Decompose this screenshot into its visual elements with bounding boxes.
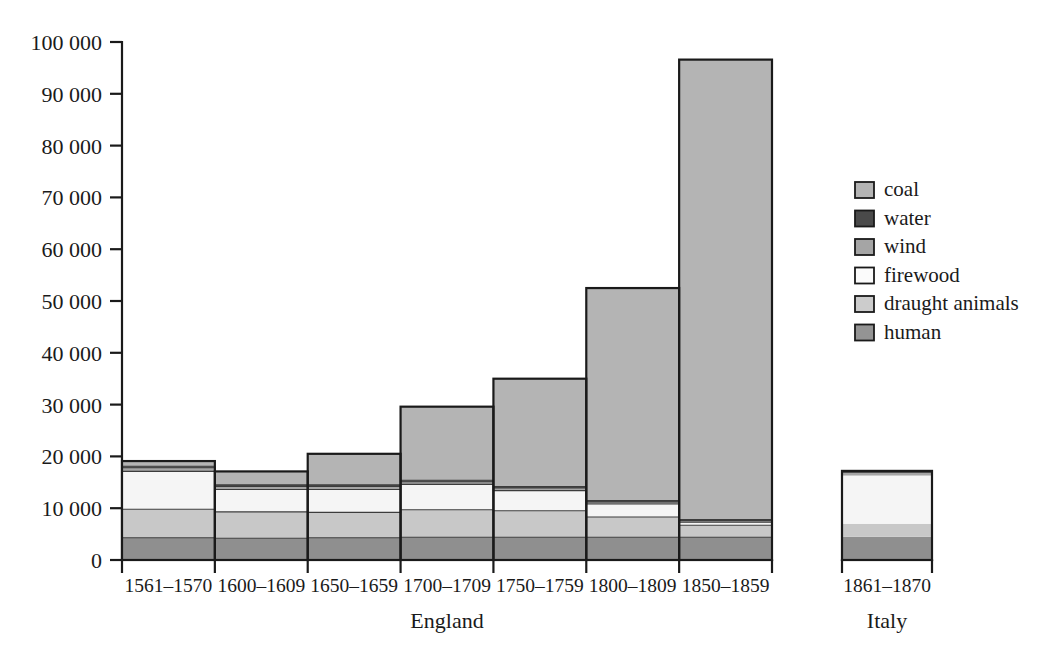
- y-axis-tick-marks: [110, 42, 122, 560]
- x-tick-label: 1600–1609: [217, 575, 305, 596]
- y-tick-label: 60 000: [42, 237, 103, 262]
- legend-swatch-wind-icon: [855, 239, 874, 255]
- x-tick-label: 1700–1709: [403, 575, 491, 596]
- y-tick-label: 70 000: [42, 185, 103, 210]
- y-axis-tick-labels: 010 00020 00030 00040 00050 00060 00070 …: [31, 30, 103, 573]
- legend-label: human: [884, 320, 942, 344]
- area-band-human: [122, 537, 772, 560]
- y-tick-label: 40 000: [42, 341, 103, 366]
- legend-swatch-water-icon: [855, 211, 874, 227]
- y-tick-label: 0: [91, 548, 102, 573]
- energy-consumption-chart: 010 00020 00030 00040 00050 00060 00070 …: [0, 0, 1052, 670]
- y-tick-label: 30 000: [42, 393, 103, 418]
- legend-item-human[interactable]: human: [855, 320, 942, 344]
- legend-swatch-coal-icon: [855, 182, 874, 198]
- x-tick-label: 1650–1659: [310, 575, 398, 596]
- x-axis: 1561–15701600–16091650–16591700–17091750…: [122, 560, 932, 596]
- x-tick-label: 1561–1570: [125, 575, 213, 596]
- legend-label: wind: [884, 234, 927, 258]
- legend-label: firewood: [884, 263, 960, 287]
- y-axis: 010 00020 00030 00040 00050 00060 00070 …: [31, 30, 123, 573]
- legend-swatch-firewood-icon: [855, 268, 874, 284]
- y-tick-label: 50 000: [42, 289, 103, 314]
- legend: coalwaterwindfirewooddraught animalshuma…: [855, 177, 1019, 344]
- legend-item-wind[interactable]: wind: [855, 234, 927, 258]
- legend-item-firewood[interactable]: firewood: [855, 263, 960, 287]
- italy-band-draught-animals: [842, 524, 932, 537]
- legend-swatch-human-icon: [855, 325, 874, 341]
- y-tick-label: 20 000: [42, 444, 103, 469]
- legend-label: coal: [884, 177, 919, 201]
- italy-band-human: [842, 537, 932, 560]
- y-tick-label: 10 000: [42, 496, 103, 521]
- italy-band-firewood: [842, 476, 932, 524]
- legend-label: draught animals: [884, 291, 1019, 315]
- x-axis-tick-marks: [122, 560, 932, 573]
- x-tick-label: 1861–1870: [843, 575, 931, 596]
- x-tick-label: 1850–1859: [682, 575, 770, 596]
- group-labels: England Italy: [410, 608, 907, 633]
- legend-item-draught-animals[interactable]: draught animals: [855, 291, 1019, 315]
- y-tick-label: 80 000: [42, 134, 103, 159]
- group-label-italy: Italy: [867, 608, 907, 633]
- chart-canvas: 010 00020 00030 00040 00050 00060 00070 …: [0, 0, 1052, 670]
- legend-item-water[interactable]: water: [855, 206, 931, 230]
- legend-label: water: [884, 206, 931, 230]
- italy-band-wind: [842, 473, 932, 476]
- group-label-england: England: [410, 608, 483, 633]
- x-tick-label: 1800–1809: [589, 575, 677, 596]
- x-axis-tick-labels: 1561–15701600–16091650–16591700–17091750…: [125, 575, 931, 596]
- area-band-coal: [122, 60, 772, 520]
- y-tick-label: 90 000: [42, 82, 103, 107]
- legend-item-coal[interactable]: coal: [855, 177, 919, 201]
- x-tick-label: 1750–1759: [496, 575, 584, 596]
- y-tick-label: 100 000: [31, 30, 103, 55]
- legend-swatch-draught-animals-icon: [855, 296, 874, 312]
- plot-area: [122, 60, 932, 560]
